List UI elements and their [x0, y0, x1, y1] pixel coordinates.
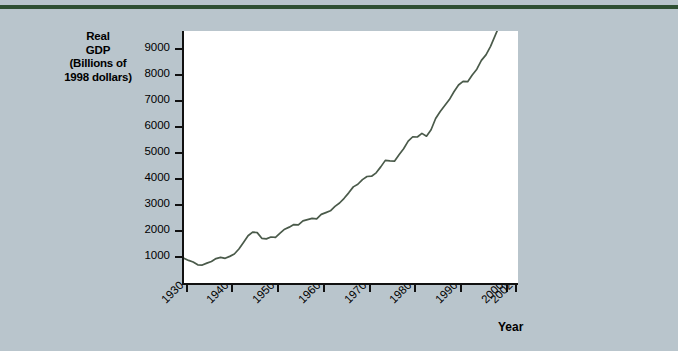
y-axis-tick-mark: [175, 204, 182, 206]
y-axis-tick-label: 8000: [126, 67, 170, 79]
y-axis-tick-mark: [175, 230, 182, 232]
gdp-line-chart: [184, 31, 518, 283]
y-axis-tick-mark: [175, 256, 182, 258]
x-axis-tick-mark: [277, 285, 279, 292]
top-rule-divider: [0, 5, 678, 9]
x-axis-tick-mark: [186, 285, 188, 292]
gdp-series-line: [184, 31, 518, 265]
y-axis-tick-label: 4000: [126, 171, 170, 183]
y-axis-tick-label: 5000: [126, 145, 170, 157]
y-axis-tick-mark: [175, 152, 182, 154]
y-axis-tick-mark: [175, 126, 182, 128]
y-axis-tick-label: 3000: [126, 197, 170, 209]
y-axis-tick-label: 7000: [126, 93, 170, 105]
y-axis-tick-mark: [175, 74, 182, 76]
y-axis-tick-label: 2000: [126, 223, 170, 235]
x-axis-tick-mark: [369, 285, 371, 292]
y-axis-tick-mark: [175, 178, 182, 180]
y-axis-tick-mark: [175, 48, 182, 50]
x-axis-tick-mark: [231, 285, 233, 292]
x-axis-title: Year: [498, 320, 523, 334]
x-axis-tick-mark: [414, 285, 416, 292]
plot-area: [182, 31, 518, 285]
y-axis-tick-label: 6000: [126, 119, 170, 131]
x-axis-tick-mark: [515, 285, 517, 292]
x-axis-tick-mark: [460, 285, 462, 292]
x-axis-tick-mark: [323, 285, 325, 292]
y-axis-tick-label: 1000: [126, 249, 170, 261]
figure-panel: Real GDP (Billions of 1998 dollars) 1000…: [0, 0, 678, 351]
y-axis-tick-mark: [175, 100, 182, 102]
y-axis-tick-label: 9000: [126, 41, 170, 53]
